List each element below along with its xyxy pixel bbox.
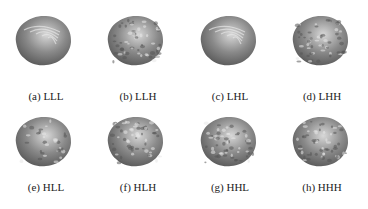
shape-render-g: [195, 113, 261, 171]
shape-render-f: [102, 113, 168, 171]
shape-render-c: [195, 12, 261, 70]
caption-c: (c) LHL: [184, 90, 276, 102]
caption-g: (g) HHL: [184, 181, 276, 193]
caption-a: (a) LLL: [0, 90, 92, 102]
shape-render-a: [10, 12, 76, 70]
caption-d: (d) LHH: [276, 90, 368, 102]
caption-h: (h) HHH: [276, 181, 368, 193]
caption-b: (b) LLH: [92, 90, 184, 102]
shape-render-b: [102, 12, 168, 70]
shape-render-d: [287, 12, 353, 70]
caption-f: (f) HLH: [92, 181, 184, 193]
caption-e: (e) HLL: [0, 181, 92, 193]
shape-render-h: [287, 113, 353, 171]
shape-render-e: [10, 113, 76, 171]
